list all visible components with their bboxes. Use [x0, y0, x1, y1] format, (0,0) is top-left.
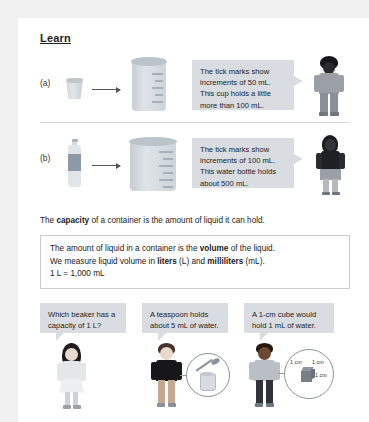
boy-character [312, 56, 346, 116]
leg-icon [323, 179, 329, 193]
head-icon [258, 347, 271, 360]
panel-beaker-question: Which beaker has a capacity of 1 L? [40, 303, 126, 333]
bubble-tail-icon [56, 333, 64, 341]
infobox-line-1: The amount of liquid in a container is t… [50, 243, 340, 256]
bubble-tail-icon [260, 333, 268, 341]
leg-icon [330, 93, 338, 113]
head-icon [65, 348, 78, 361]
example-row-a: (a) The tick marks show increments of 50… [40, 52, 350, 120]
example-row-b: (b) The tick marks show increments of 10… [40, 129, 350, 205]
leg-icon [73, 392, 78, 406]
beaker-tick [159, 165, 173, 167]
infobox-l2-before: We measure liquid volume in [50, 257, 157, 266]
bubble-tail-icon [158, 333, 166, 341]
bubble-tail-icon [294, 154, 303, 164]
girl-character [54, 343, 88, 409]
arrow-icon [92, 89, 120, 90]
cube-label-left: 1 cm [290, 359, 302, 365]
bottle-label [68, 154, 81, 171]
capacity-keyword: capacity [56, 216, 89, 225]
shirt-icon [319, 73, 339, 94]
leg-icon [320, 93, 328, 113]
example-label-a: (a) [40, 78, 50, 88]
infobox-line-3: 1 L = 1,000 mL [50, 268, 340, 281]
capacity-sentence: The capacity of a container is the amoun… [40, 215, 350, 227]
arrow-icon [92, 165, 120, 166]
worksheet-page: Learn (a) The tick marks show increments… [18, 18, 369, 422]
foot-icon [322, 192, 330, 195]
panel-bubble-3: A 1-cm cube would hold 1 mL of water. [244, 303, 334, 333]
mini-cup-icon [200, 374, 216, 391]
cube-front-face [301, 371, 312, 382]
capacity-text-after: of a container is the amount of liquid i… [89, 216, 265, 225]
shirt-icon [156, 360, 177, 381]
example-label-b: (b) [40, 153, 50, 163]
head-icon [325, 139, 336, 151]
arm-icon [57, 363, 63, 381]
infobox-l2-mid: (L) and [177, 257, 208, 266]
beaker-tick [152, 73, 163, 75]
arm-icon [80, 363, 86, 381]
bubble-tail-icon [294, 76, 303, 86]
leg-icon [158, 380, 165, 404]
beaker-small-icon [132, 61, 166, 111]
beaker-rim [131, 57, 166, 66]
cube-magnifier: 1 cm 1 cm 1 cm [284, 349, 334, 399]
beaker-tick [163, 158, 173, 160]
foot-icon [63, 405, 71, 409]
arm-icon [151, 362, 157, 380]
arm-icon [274, 362, 280, 380]
foot-icon [330, 112, 339, 116]
examples-panel-row: Which beaker has a capacity of 1 L? [40, 303, 350, 415]
infobox-l2-after: (mL). [243, 257, 264, 266]
beaker-tick [152, 87, 163, 89]
arm-icon [338, 75, 344, 92]
leg-icon [266, 380, 273, 404]
beaker-rim [129, 137, 177, 146]
foot-icon [73, 405, 81, 409]
beaker-tick [155, 94, 163, 96]
speech-bubble-b: The tick marks show increments of 100 mL… [192, 138, 294, 188]
speech-bubble-a: The tick marks show increments of 50 mL.… [192, 60, 294, 110]
panel-cube: A 1-cm cube would hold 1 mL of water. 1 … [244, 303, 334, 333]
head-icon [160, 347, 173, 360]
beaker-tick [155, 80, 163, 82]
infobox-l2-keyword-2: milliliters [207, 257, 243, 266]
mini-cup-rim [200, 372, 214, 376]
panel-teaspoon: A teaspoon holds about 5 mL of water. [142, 303, 228, 333]
leg-icon [256, 380, 263, 404]
arm-icon [176, 362, 182, 380]
arm-icon [314, 75, 320, 92]
arm-icon [316, 153, 322, 169]
cube-label-right: 1 cm [315, 372, 327, 378]
beaker-tick [159, 151, 173, 153]
shirt-icon [321, 151, 340, 170]
arm-icon [339, 153, 345, 169]
beaker-tick [163, 172, 173, 174]
water-bottle-icon [68, 139, 81, 187]
leg-icon [65, 392, 70, 406]
row-divider [40, 122, 350, 123]
foot-icon [168, 403, 176, 407]
dress-icon [62, 361, 81, 381]
capacity-text-before: The [40, 216, 56, 225]
infobox-l1-after: of the liquid. [228, 244, 274, 253]
beaker-tick [152, 101, 163, 103]
foot-icon [157, 403, 165, 407]
infobox-line-2: We measure liquid volume in liters (L) a… [50, 256, 340, 269]
cup-icon [66, 78, 83, 99]
boy-character [150, 343, 182, 409]
beaker-tick [163, 186, 173, 188]
infobox-l1-before: The amount of liquid in a container is t… [50, 244, 200, 253]
shirt-icon [254, 360, 275, 381]
skirt-icon [59, 379, 84, 393]
foot-icon [266, 403, 274, 407]
infobox-l2-keyword-1: liters [157, 257, 177, 266]
foot-icon [319, 112, 328, 116]
leg-icon [168, 380, 175, 404]
cube-label-top: 1 cm [312, 359, 324, 365]
leg-icon [332, 179, 338, 193]
worksheet-content: Learn (a) The tick marks show increments… [40, 32, 350, 415]
teaspoon-magnifier [186, 353, 230, 397]
arm-icon [249, 362, 255, 380]
